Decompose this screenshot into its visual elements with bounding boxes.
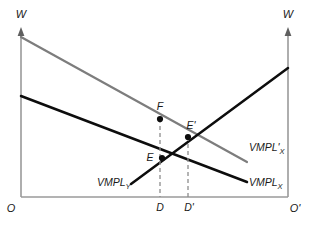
vmpl-labor-allocation-diagram: W W O O' D D' F E' E VMPL'X VMPLY VMPLX xyxy=(0,0,309,226)
left-axis-arrowhead xyxy=(18,27,25,36)
point-marker-f xyxy=(157,116,163,122)
point-label-f: F xyxy=(157,100,164,112)
right-axis-arrowhead xyxy=(285,27,292,36)
curve-label-vmpl-x-main: VMPL xyxy=(249,176,278,188)
svg-text:VMPLX: VMPLX xyxy=(249,176,284,191)
right-axis-label: W xyxy=(283,8,295,20)
tick-label-d: D xyxy=(156,201,164,213)
curve-label-vmpl-x-prime-sub: X xyxy=(279,147,286,156)
curve-label-vmpl-y-main: VMPL xyxy=(97,176,126,188)
curve-label-vmpl-y: VMPLY xyxy=(97,176,132,191)
point-label-e-prime: E' xyxy=(186,119,196,131)
curve-label-vmpl-x-prime-main: VMPL xyxy=(249,141,278,153)
curve-vmpl-x xyxy=(21,96,247,182)
svg-text:VMPL'X: VMPL'X xyxy=(249,141,286,156)
curve-vmpl-x-prime xyxy=(21,37,247,162)
curve-label-vmpl-x-sub: X xyxy=(277,182,284,191)
diagram-root: W W O O' D D' F E' E VMPL'X VMPLY VMPLX xyxy=(0,0,309,226)
left-origin-label: O xyxy=(7,202,16,214)
tick-label-d-prime: D' xyxy=(184,201,195,213)
curve-label-vmpl-x-prime: VMPL'X xyxy=(249,141,286,156)
left-axis-label: W xyxy=(16,8,28,20)
curve-label-vmpl-x: VMPLX xyxy=(249,176,284,191)
curves-group xyxy=(21,37,288,184)
point-marker-e-prime xyxy=(185,134,191,140)
right-origin-label: O' xyxy=(290,202,302,214)
svg-text:VMPLY: VMPLY xyxy=(97,176,132,191)
point-label-e: E xyxy=(146,151,154,163)
point-marker-e xyxy=(159,155,165,161)
